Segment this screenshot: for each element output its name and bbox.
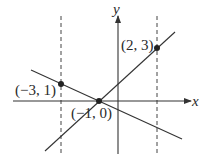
- point-2-3: [154, 45, 160, 51]
- label-point-neg3-1: (−3, 1): [15, 82, 56, 99]
- y-axis-label: y: [111, 1, 120, 17]
- point-neg3-1: [58, 81, 64, 87]
- label-point-neg1-0: (−1, 0): [71, 105, 112, 122]
- coordinate-diagram: y x (2, 3) (−3, 1) (−1, 0): [0, 0, 203, 163]
- x-axis-label: x: [191, 93, 199, 109]
- label-point-2-3: (2, 3): [121, 37, 154, 54]
- point-neg1-0: [96, 98, 102, 104]
